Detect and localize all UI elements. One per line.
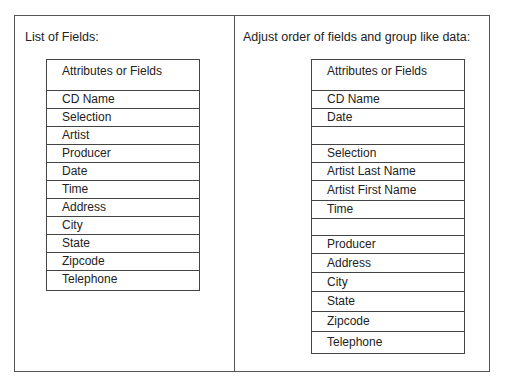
left-caption: List of Fields:	[25, 30, 99, 44]
table-row: Address	[47, 198, 199, 216]
table-header: Attributes or Fields	[312, 60, 464, 90]
table-row: Selection	[312, 144, 464, 162]
panel-divider	[234, 16, 235, 371]
table-row: City	[312, 272, 464, 291]
table-row: Artist	[47, 126, 199, 144]
table-row: Date	[47, 162, 199, 180]
table-row: State	[47, 234, 199, 252]
table-row: Artist Last Name	[312, 162, 464, 180]
table-row: Artist First Name	[312, 180, 464, 200]
figure-frame: List of Fields: Attributes or Fields CD …	[14, 15, 490, 372]
table-row: Telephone	[47, 270, 199, 290]
table-row: State	[312, 291, 464, 311]
left-fields-table: Attributes or Fields CD Name Selection A…	[46, 59, 200, 291]
table-row-spacer	[312, 218, 464, 235]
table-row: Zipcode	[312, 311, 464, 331]
right-fields-table: Attributes or Fields CD Name Date Select…	[311, 59, 465, 354]
right-caption: Adjust order of fields and group like da…	[243, 30, 470, 44]
table-row: Date	[312, 108, 464, 126]
table-row: Producer	[47, 144, 199, 162]
table-row: Time	[47, 180, 199, 198]
table-row: Address	[312, 253, 464, 272]
table-row: City	[47, 216, 199, 234]
table-row: Zipcode	[47, 252, 199, 270]
table-row: Time	[312, 200, 464, 218]
table-row: Selection	[47, 108, 199, 126]
table-row: Telephone	[312, 331, 464, 353]
table-header: Attributes or Fields	[47, 60, 199, 90]
table-row: CD Name	[47, 90, 199, 108]
table-row: CD Name	[312, 90, 464, 108]
table-row-spacer	[312, 126, 464, 144]
table-row: Producer	[312, 235, 464, 253]
